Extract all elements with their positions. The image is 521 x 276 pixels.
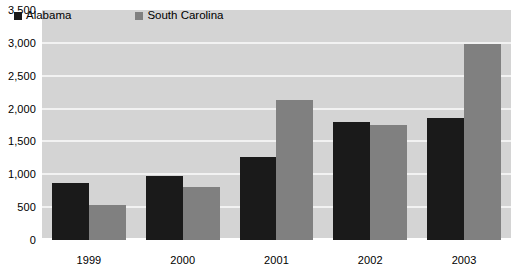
legend-label: Alabama xyxy=(26,10,71,22)
bar-chart: 3,5003,0002,5002,0001,5001,0005000 Alaba… xyxy=(0,0,521,276)
plot-area xyxy=(42,10,511,240)
bar-groups xyxy=(42,10,511,240)
legend-entry[interactable]: Alabama xyxy=(14,10,71,22)
x-axis: 19992000200120022003 xyxy=(42,240,511,276)
legend-label: South Carolina xyxy=(147,10,223,22)
y-tick-label: 3,000 xyxy=(8,37,36,49)
bar-south-carolina-2003 xyxy=(464,44,501,240)
legend-swatch-alabama xyxy=(14,12,22,20)
y-tick-label: 500 xyxy=(17,201,36,213)
x-tick-label: 2002 xyxy=(323,240,417,276)
bar-south-carolina-2000 xyxy=(183,187,220,240)
bar-alabama-2002 xyxy=(333,122,370,240)
x-tick-label: 2000 xyxy=(136,240,230,276)
legend-swatch-south-carolina xyxy=(135,12,143,20)
y-tick-label: 0 xyxy=(30,234,36,246)
bar-group xyxy=(136,10,230,240)
bar-alabama-2001 xyxy=(240,157,277,240)
y-tick-label: 2,500 xyxy=(8,70,36,82)
bar-south-carolina-1999 xyxy=(89,205,126,240)
bar-alabama-1999 xyxy=(52,183,89,240)
bar-alabama-2003 xyxy=(427,118,464,240)
y-tick-label: 2,000 xyxy=(8,103,36,115)
bar-south-carolina-2002 xyxy=(370,125,407,240)
bar-south-carolina-2001 xyxy=(276,100,313,240)
y-axis: 3,5003,0002,5002,0001,5001,0005000 xyxy=(0,0,42,240)
bar-group xyxy=(323,10,417,240)
bar-group xyxy=(417,10,511,240)
chart-legend: AlabamaSouth Carolina xyxy=(14,10,223,22)
y-tick-label: 1,500 xyxy=(8,135,36,147)
x-tick-label: 2001 xyxy=(230,240,324,276)
bar-group xyxy=(42,10,136,240)
bar-alabama-2000 xyxy=(146,176,183,240)
bar-group xyxy=(230,10,324,240)
x-tick-label: 2003 xyxy=(417,240,511,276)
x-tick-label: 1999 xyxy=(42,240,136,276)
legend-entry[interactable]: South Carolina xyxy=(135,10,223,22)
y-tick-label: 1,000 xyxy=(8,168,36,180)
